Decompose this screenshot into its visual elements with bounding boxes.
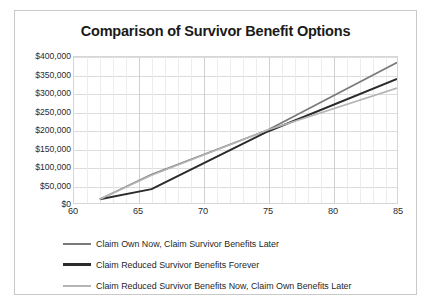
legend-item-label: Claim Own Now, Claim Survivor Benefits L… bbox=[96, 239, 279, 249]
chart-legend: Claim Own Now, Claim Survivor Benefits L… bbox=[63, 233, 406, 296]
y-axis-tick-label: $100,000 bbox=[15, 162, 71, 172]
y-axis-tick-label: $250,000 bbox=[15, 107, 71, 117]
y-axis-tick-label: $350,000 bbox=[15, 70, 71, 80]
legend-item[interactable]: Claim Own Now, Claim Survivor Benefits L… bbox=[63, 233, 406, 254]
x-axis-tick-label: 65 bbox=[133, 206, 143, 216]
x-axis-tick-label: 85 bbox=[393, 206, 403, 216]
series-lines bbox=[74, 57, 397, 203]
x-axis-tick-label: 60 bbox=[68, 206, 78, 216]
y-axis-labels: $0$50,000$100,000$150,000$200,000$250,00… bbox=[15, 56, 71, 204]
legend-item[interactable]: Claim Reduced Survivor Benefits Forever bbox=[63, 254, 406, 275]
series-line bbox=[100, 79, 397, 199]
x-axis-tick-label: 75 bbox=[263, 206, 273, 216]
x-axis-labels: 606570758085 bbox=[73, 206, 398, 222]
legend-item-label: Claim Reduced Survivor Benefits Now, Cla… bbox=[96, 281, 352, 291]
plot-wrapper bbox=[73, 56, 398, 204]
chart-title: Comparison of Survivor Benefit Options bbox=[15, 23, 416, 39]
legend-item-label: Claim Reduced Survivor Benefits Forever bbox=[96, 260, 259, 270]
y-axis-tick-label: $300,000 bbox=[15, 88, 71, 98]
series-line bbox=[100, 88, 397, 199]
chart-figure: Comparison of Survivor Benefit Options $… bbox=[14, 10, 417, 295]
legend-color-swatch bbox=[63, 263, 91, 266]
y-axis-tick-label: $0 bbox=[15, 199, 71, 209]
y-axis-tick-label: $150,000 bbox=[15, 144, 71, 154]
plot-area bbox=[73, 56, 398, 204]
y-axis-tick-label: $200,000 bbox=[15, 125, 71, 135]
legend-color-swatch bbox=[63, 285, 91, 287]
x-axis-tick-label: 70 bbox=[198, 206, 208, 216]
y-axis-tick-label: $50,000 bbox=[15, 181, 71, 191]
legend-color-swatch bbox=[63, 243, 91, 245]
y-axis-tick-label: $400,000 bbox=[15, 51, 71, 61]
x-axis-tick-label: 80 bbox=[328, 206, 338, 216]
legend-item[interactable]: Claim Reduced Survivor Benefits Now, Cla… bbox=[63, 275, 406, 296]
